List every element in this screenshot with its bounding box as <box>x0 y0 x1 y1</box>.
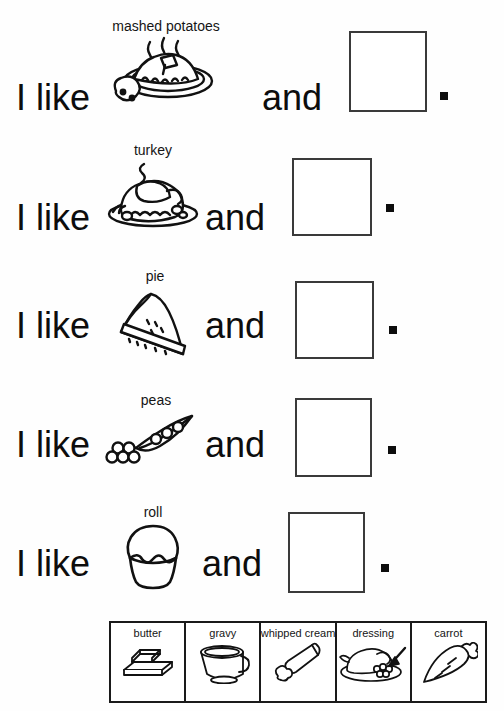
picture-slot: roll <box>98 504 208 598</box>
butter-dish-icon <box>116 642 180 688</box>
picture-label: pie <box>100 268 210 284</box>
carrot-icon <box>418 642 478 688</box>
word-bank-cell-carrot[interactable]: carrot <box>412 623 485 701</box>
sentence-prefix: I like <box>16 308 90 344</box>
gravy-boat-icon <box>193 642 253 688</box>
picture-label: mashed potatoes <box>96 18 236 34</box>
sentence-conjunction: and <box>262 80 322 116</box>
sentence-prefix: I like <box>16 427 90 463</box>
picture-slot: pie <box>100 268 210 364</box>
picture-slot: peas <box>96 392 216 470</box>
picture-label: turkey <box>88 142 218 158</box>
word-bank: butter gravy <box>109 621 487 703</box>
sentence-row: I like mashed potatoes <box>0 18 504 130</box>
sentence-conjunction: and <box>205 200 265 236</box>
sentence-conjunction: and <box>205 308 265 344</box>
sentence-conjunction: and <box>205 427 265 463</box>
sentence-prefix: I like <box>16 546 90 582</box>
answer-box[interactable] <box>295 398 372 477</box>
sentence-row: I like roll and <box>0 496 504 606</box>
picture-label: peas <box>96 392 216 408</box>
word-bank-label: butter <box>134 627 162 640</box>
sentence-prefix: I like <box>16 80 90 116</box>
word-bank-cell-dressing[interactable]: dressing <box>337 623 412 701</box>
picture-slot: mashed potatoes <box>96 18 236 114</box>
pea-pod-icon <box>96 408 216 470</box>
word-bank-cell-butter[interactable]: butter <box>111 623 186 701</box>
answer-box[interactable] <box>288 512 365 593</box>
sentence-conjunction: and <box>202 546 262 582</box>
word-bank-label: dressing <box>352 627 394 640</box>
sentence-period <box>381 564 389 572</box>
answer-box[interactable] <box>295 281 374 359</box>
worksheet-page: I like mashed potatoes <box>0 0 504 711</box>
sentence-period <box>388 446 396 454</box>
word-bank-cell-whipped-cream[interactable]: whipped cream <box>261 623 336 701</box>
answer-box[interactable] <box>349 31 427 112</box>
sentence-row: I like pie and <box>0 264 504 374</box>
pie-slice-icon <box>100 284 210 364</box>
word-bank-label: whipped cream <box>261 627 335 640</box>
sentence-prefix: I like <box>16 200 90 236</box>
whipped-cream-can-icon <box>268 642 328 688</box>
word-bank-label: carrot <box>434 627 462 640</box>
answer-box[interactable] <box>292 158 372 236</box>
sentence-row: I like peas <box>0 382 504 492</box>
dinner-roll-icon <box>98 520 208 598</box>
word-bank-label: gravy <box>209 627 236 640</box>
dressing-platter-icon <box>337 642 409 688</box>
picture-label: roll <box>98 504 208 520</box>
roast-turkey-icon <box>88 158 218 236</box>
sentence-period <box>440 92 448 100</box>
sentence-period <box>386 204 394 212</box>
word-bank-cell-gravy[interactable]: gravy <box>186 623 261 701</box>
sentence-period <box>389 326 397 334</box>
sentence-row: I like turkey <box>0 140 504 252</box>
mashed-potatoes-icon <box>96 34 236 114</box>
picture-slot: turkey <box>88 142 218 236</box>
